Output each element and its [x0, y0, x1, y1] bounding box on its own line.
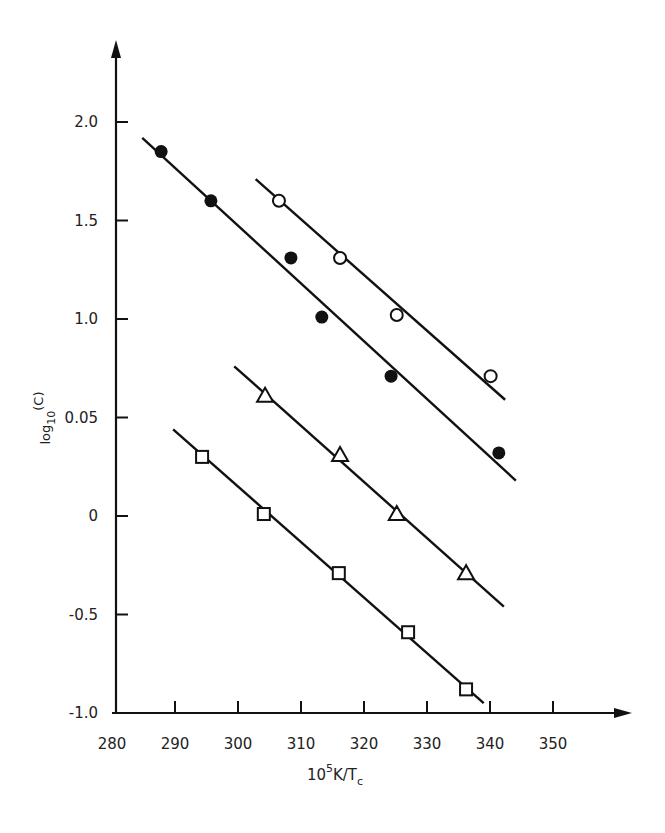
- data-markers: [155, 145, 506, 695]
- y-tick-label: 1.5: [74, 212, 98, 230]
- open-circle-marker: [391, 309, 403, 321]
- open-triangle-marker: [389, 506, 405, 520]
- axes: [111, 40, 632, 718]
- open-circle-marker: [273, 195, 285, 207]
- x-tick-label: 350: [539, 735, 568, 753]
- filled-circle-marker: [284, 251, 297, 264]
- y-axis-title: log10(C): [31, 391, 58, 444]
- x-tick-label: 320: [350, 735, 379, 753]
- open-circle-marker: [485, 370, 497, 382]
- filled-circle-marker: [315, 311, 328, 324]
- fit-line: [173, 429, 484, 703]
- filled-circle-marker: [385, 370, 398, 383]
- fit-line: [142, 138, 516, 481]
- y-tick-label: 0.05: [65, 409, 98, 427]
- open-square-marker: [402, 626, 414, 638]
- fit-line: [256, 179, 505, 400]
- open-circle-marker: [334, 252, 346, 264]
- y-tick-label: -0.5: [69, 606, 98, 624]
- x-tick-label: 310: [287, 735, 316, 753]
- x-axis-arrow-icon: [614, 708, 632, 718]
- open-square-marker: [460, 683, 472, 695]
- x-tick-label: 290: [161, 735, 190, 753]
- ticks: 2802903003103203303403502.01.51.00.050-0…: [65, 113, 568, 753]
- filled-circle-marker: [204, 194, 217, 207]
- x-tick-label: 280: [98, 735, 127, 753]
- filled-circle-marker: [492, 446, 505, 459]
- x-axis-title: 105K/Tc: [307, 762, 363, 788]
- fit-lines: [142, 138, 516, 703]
- open-square-marker: [333, 567, 345, 579]
- y-tick-label: 0: [88, 507, 98, 525]
- y-axis-arrow-icon: [111, 40, 121, 58]
- open-square-marker: [258, 508, 270, 520]
- open-square-marker: [196, 451, 208, 463]
- open-triangle-marker: [332, 447, 348, 461]
- y-tick-label: 1.0: [74, 310, 98, 328]
- x-tick-label: 300: [224, 735, 253, 753]
- y-tick-label: -1.0: [69, 704, 98, 722]
- x-tick-label: 330: [413, 735, 442, 753]
- filled-circle-marker: [155, 145, 168, 158]
- x-tick-label: 340: [476, 735, 505, 753]
- y-tick-label: 2.0: [74, 113, 98, 131]
- chart: 2802903003103203303403502.01.51.00.050-0…: [0, 0, 665, 833]
